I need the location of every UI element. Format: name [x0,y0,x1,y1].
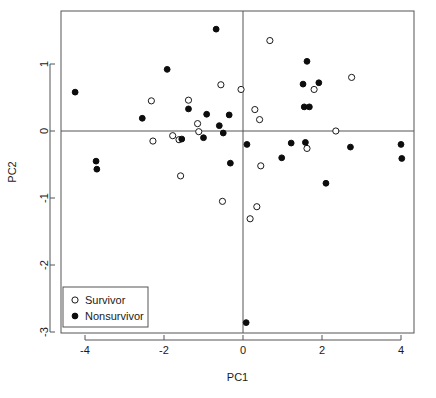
reference-lines [61,11,414,333]
data-point-survivor [170,133,176,139]
data-point-nonsurvivor [164,66,170,72]
data-point-nonsurvivor [179,136,185,142]
data-point-nonsurvivor [306,104,312,110]
pca-scatter-chart: -4-2024 10-1-2-3 SurvivorNonsurvivor PC1… [0,0,436,398]
data-point-survivor [304,145,310,151]
plot-border [61,11,414,333]
x-tick-label: 0 [240,344,246,356]
data-point-nonsurvivor [139,115,145,121]
data-point-survivor [194,121,200,127]
legend-marker-survivor [72,297,78,303]
data-point-nonsurvivor [316,80,322,86]
data-point-nonsurvivor [220,130,226,136]
data-point-nonsurvivor [227,160,233,166]
legend-marker-nonsurvivor [72,313,78,319]
data-point-survivor [148,98,154,104]
y-tick-label: -3 [38,327,50,337]
y-axis-label: PC2 [6,161,18,182]
x-axis-ticks: -4-2024 [80,335,404,356]
data-point-survivor [349,74,355,80]
y-tick-label: 0 [38,128,50,134]
y-tick-label: -1 [38,193,50,203]
data-point-survivor [218,82,224,88]
data-point-nonsurvivor [399,156,405,162]
data-point-nonsurvivor [279,155,285,161]
data-point-survivor [196,129,202,135]
y-axis-ticks: 10-1-2-3 [38,61,55,337]
data-point-nonsurvivor [94,166,100,172]
data-points [72,26,404,325]
plot-frame [61,11,414,333]
data-point-nonsurvivor [303,139,309,145]
data-point-survivor [256,117,262,123]
data-point-survivor [254,204,260,210]
y-tick-label: -2 [38,260,50,270]
chart-legend: SurvivorNonsurvivor [63,287,148,327]
data-point-nonsurvivor [201,135,207,141]
data-point-nonsurvivor [348,144,354,150]
data-point-nonsurvivor [93,158,99,164]
data-point-survivor [333,128,339,134]
data-point-survivor [238,86,244,92]
data-point-nonsurvivor [213,26,219,32]
data-point-nonsurvivor [304,58,310,64]
data-point-survivor [150,138,156,144]
data-point-nonsurvivor [288,140,294,146]
x-tick-label: 2 [319,344,325,356]
data-point-survivor [252,106,258,112]
x-tick-label: -2 [159,344,169,356]
data-point-nonsurvivor [226,112,232,118]
data-point-survivor [247,216,253,222]
data-point-nonsurvivor [186,106,192,112]
data-point-nonsurvivor [244,142,250,148]
data-point-nonsurvivor [398,142,404,148]
x-tick-label: -4 [80,344,90,356]
data-point-nonsurvivor [243,320,249,326]
data-point-nonsurvivor [204,111,210,117]
data-point-nonsurvivor [300,81,306,87]
legend-label-nonsurvivor: Nonsurvivor [85,310,144,322]
data-point-survivor [311,86,317,92]
x-tick-label: 4 [398,344,404,356]
scatter-plot-root: -4-2024 10-1-2-3 SurvivorNonsurvivor PC1… [0,0,436,398]
data-point-survivor [177,173,183,179]
data-point-survivor [267,37,273,43]
data-point-nonsurvivor [216,123,222,129]
legend-label-survivor: Survivor [85,294,126,306]
data-point-survivor [219,198,225,204]
y-tick-label: 1 [38,61,50,67]
data-point-survivor [258,163,264,169]
x-axis-label: PC1 [227,371,248,383]
data-point-nonsurvivor [72,89,78,95]
data-point-nonsurvivor [323,180,329,186]
data-point-survivor [185,97,191,103]
